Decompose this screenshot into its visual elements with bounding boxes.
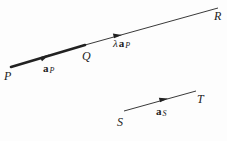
- arrowhead-as-icon: [159, 97, 168, 102]
- diagram-canvas: P Q R S T aP λaP aS: [0, 0, 227, 141]
- label-t: T: [197, 92, 205, 106]
- label-vector-ap: aP: [43, 62, 55, 75]
- label-vector-as: aS: [156, 105, 167, 118]
- label-p: P: [3, 69, 12, 83]
- label-s: S: [117, 115, 123, 129]
- vector-line-diagram: P Q R S T aP λaP aS: [0, 0, 227, 141]
- label-q: Q: [82, 49, 91, 63]
- label-r: R: [213, 9, 222, 23]
- label-vector-lambda-ap: λaP: [112, 37, 130, 50]
- line-qr: [85, 8, 218, 45]
